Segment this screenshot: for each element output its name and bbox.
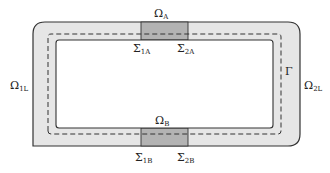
domain-diagram: ΩA Σ1A Σ2A Ω1L Ω2L Γ ΩB Σ1B Σ2B: [0, 0, 330, 173]
label-omega-a: ΩA: [154, 7, 169, 21]
label-omega-1l: Ω1L: [10, 79, 29, 93]
label-gamma: Γ: [285, 65, 293, 78]
patch-omega-b: [141, 128, 188, 146]
label-omega-2l: Ω2L: [304, 79, 323, 93]
inner-hole: [56, 40, 273, 128]
label-sigma-2b: Σ2B: [177, 151, 194, 165]
patch-omega-a: [141, 22, 188, 40]
label-sigma-1b: Σ1B: [135, 151, 152, 165]
